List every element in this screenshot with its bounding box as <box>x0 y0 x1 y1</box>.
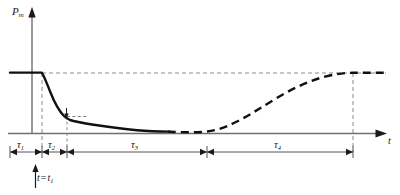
t-start-callout-up-arrow-icon <box>32 164 38 172</box>
response-curve-solid <box>10 73 170 132</box>
tau3-left-arrow-icon <box>67 149 74 155</box>
t-start-annotation: t=t1 <box>37 173 53 183</box>
y-axis-arrow-icon <box>28 7 35 18</box>
tau3-right-arrow-icon <box>200 149 207 155</box>
tau-1-label: τ1 <box>17 140 24 151</box>
interval-dimension-group <box>10 146 353 158</box>
tau4-right-arrow-icon <box>346 149 353 155</box>
tau-4-sub: 4 <box>278 144 281 151</box>
tau-2-sub: 2 <box>52 144 55 151</box>
figure-canvas <box>0 0 400 195</box>
tau1-right-arrow-icon <box>35 149 42 155</box>
t-start-value-sub: 1 <box>50 177 53 184</box>
tau2-right-arrow-icon <box>60 149 67 155</box>
power-response-figure: Pm t τ1 τ2 τ3 τ4 t=t1 <box>0 0 400 195</box>
tau-4-label: τ4 <box>274 140 281 151</box>
tau-1-sub: 1 <box>21 144 24 151</box>
y-axis-label-main: P <box>12 5 19 17</box>
x-axis-label-main: t <box>388 135 391 146</box>
x-axis-label: t <box>388 136 391 146</box>
tau-3-sub: 3 <box>135 144 138 151</box>
tau1-left-arrow-icon <box>10 149 17 155</box>
y-axis-label-sub: m <box>19 11 24 18</box>
tau4-left-arrow-icon <box>207 149 214 155</box>
tau-3-label: τ3 <box>131 140 138 151</box>
x-axis-arrow-icon <box>376 129 388 137</box>
tau-2-label: τ2 <box>48 140 55 151</box>
y-axis-label: Pm <box>12 6 24 17</box>
